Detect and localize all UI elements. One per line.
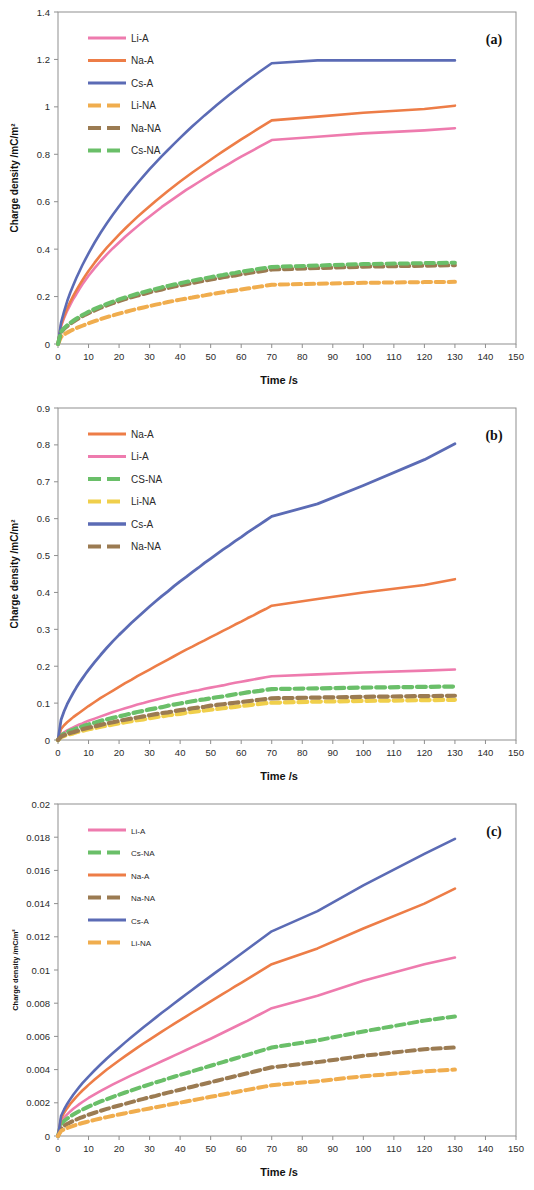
- y-tick-label: 0.01: [32, 965, 51, 976]
- legend-label-Na-A: Na-A: [131, 55, 154, 66]
- x-axis-title: Time /s: [260, 374, 298, 386]
- x-axis-title: Time /s: [260, 1166, 298, 1178]
- panel-tag-label: (b): [485, 428, 502, 444]
- chart-svg-b: 00.10.20.30.40.50.60.70.80.9010203040506…: [0, 396, 534, 792]
- x-tick-label: 80: [297, 747, 308, 758]
- y-tick-label: 0.1: [37, 698, 50, 709]
- legend-label-Na-NA: Na-NA: [131, 123, 161, 134]
- x-tick-label: 50: [205, 351, 216, 362]
- x-tick-label: 20: [114, 351, 125, 362]
- x-tick-label: 90: [328, 1143, 339, 1154]
- legend-label-Cs-A: Cs-A: [131, 78, 154, 89]
- x-axis-title: Time /s: [260, 770, 298, 782]
- legend-label-Na-A: Na-A: [131, 429, 154, 440]
- chart-svg-a: 00.20.40.60.811.21.401020304050607080901…: [0, 0, 534, 396]
- x-tick-label: 40: [175, 1143, 186, 1154]
- x-tick-label: 70: [266, 1143, 277, 1154]
- y-tick-label: 0.8: [37, 439, 50, 450]
- series-curve-Li-A: [58, 958, 455, 1136]
- y-tick-label: 0.002: [26, 1097, 50, 1108]
- panel-tag-label: (c): [486, 824, 502, 840]
- x-tick-label: 60: [236, 1143, 247, 1154]
- x-tick-label: 0: [55, 351, 60, 362]
- chart-panel-a: 00.20.40.60.811.21.401020304050607080901…: [0, 0, 534, 396]
- y-tick-label: 0.6: [37, 196, 50, 207]
- legend-label-CS-NA: CS-NA: [131, 474, 162, 485]
- y-tick-label: 1.2: [37, 54, 50, 65]
- x-tick-label: 150: [508, 1143, 524, 1154]
- x-tick-label: 60: [236, 351, 247, 362]
- x-tick-label: 110: [386, 747, 401, 758]
- x-tick-label: 90: [328, 351, 339, 362]
- x-tick-label: 10: [83, 1143, 94, 1154]
- y-tick-label: 0.5: [37, 550, 50, 561]
- y-tick-label: 0.4: [37, 587, 50, 598]
- series-curve-Na-A: [58, 579, 455, 740]
- legend-label-Li-A: Li-A: [131, 451, 149, 462]
- legend-label-Li-A: Li-A: [131, 33, 149, 44]
- y-tick-label: 1.4: [37, 7, 50, 18]
- x-tick-label: 0: [55, 747, 60, 758]
- y-axis-title: Charge density /mC/m²: [9, 519, 20, 629]
- y-tick-label: 0.014: [26, 898, 50, 909]
- x-tick-label: 130: [447, 747, 463, 758]
- y-tick-label: 0.004: [26, 1064, 50, 1075]
- series-curve-Cs-A: [58, 839, 455, 1136]
- x-tick-label: 30: [144, 747, 155, 758]
- panel-tag-label: (a): [486, 32, 503, 48]
- x-tick-label: 50: [205, 747, 216, 758]
- y-tick-label: 0.2: [37, 661, 50, 672]
- legend-label-Li-NA: Li-NA: [131, 100, 156, 111]
- series-curve-Li-NA: [58, 1070, 455, 1136]
- legend-label-Cs-NA: Cs-NA: [131, 849, 155, 858]
- y-tick-label: 0.2: [37, 291, 50, 302]
- x-tick-label: 80: [297, 351, 308, 362]
- x-tick-label: 120: [416, 351, 432, 362]
- y-tick-label: 0.02: [32, 799, 51, 810]
- legend-label-Li-NA: Li-NA: [131, 496, 156, 507]
- x-tick-label: 110: [386, 351, 401, 362]
- x-tick-label: 140: [478, 747, 494, 758]
- x-tick-label: 0: [55, 1143, 60, 1154]
- y-tick-label: 0.3: [37, 624, 50, 635]
- x-tick-label: 60: [236, 747, 247, 758]
- x-tick-label: 80: [297, 1143, 308, 1154]
- x-tick-label: 30: [144, 1143, 155, 1154]
- x-tick-label: 100: [355, 1143, 371, 1154]
- series-curve-Cs-NA: [58, 1016, 455, 1136]
- chart-panel-b: 00.10.20.30.40.50.60.70.80.9010203040506…: [0, 396, 534, 792]
- x-tick-label: 50: [205, 1143, 216, 1154]
- y-axis-title: Charge density /mC/m²: [9, 123, 20, 233]
- y-tick-label: 0.6: [37, 513, 50, 524]
- y-tick-label: 0: [45, 339, 50, 350]
- x-tick-label: 140: [478, 351, 494, 362]
- y-tick-label: 0: [45, 735, 50, 746]
- x-tick-label: 130: [447, 1143, 463, 1154]
- x-tick-label: 100: [355, 351, 371, 362]
- legend-label-Na-NA: Na-NA: [131, 894, 156, 903]
- plot-frame: [58, 804, 516, 1136]
- x-tick-label: 150: [508, 351, 524, 362]
- x-tick-label: 10: [83, 351, 94, 362]
- x-tick-label: 100: [355, 747, 371, 758]
- series-curve-Na-NA: [58, 265, 455, 344]
- legend-label-Cs-A: Cs-A: [131, 519, 154, 530]
- chart-panel-c: 00.0020.0040.0060.0080.010.0120.0140.016…: [0, 792, 534, 1188]
- y-tick-label: 0.008: [26, 998, 50, 1009]
- legend-label-Li-NA: Li-NA: [131, 939, 152, 948]
- x-tick-label: 20: [114, 1143, 125, 1154]
- series-curve-Na-A: [58, 106, 455, 344]
- x-tick-label: 90: [328, 747, 339, 758]
- x-tick-label: 70: [266, 747, 277, 758]
- y-tick-label: 0.012: [26, 931, 50, 942]
- y-tick-label: 1: [45, 101, 50, 112]
- x-tick-label: 70: [266, 351, 277, 362]
- y-axis-title: Charge density /mC/m²: [11, 929, 20, 1011]
- x-tick-label: 30: [144, 351, 155, 362]
- x-tick-label: 130: [447, 351, 463, 362]
- legend-label-Na-NA: Na-NA: [131, 541, 161, 552]
- y-tick-label: 0.7: [37, 476, 50, 487]
- legend-label-Cs-A: Cs-A: [131, 917, 149, 926]
- series-curve-Na-A: [58, 889, 455, 1136]
- legend-label-Li-A: Li-A: [131, 827, 146, 836]
